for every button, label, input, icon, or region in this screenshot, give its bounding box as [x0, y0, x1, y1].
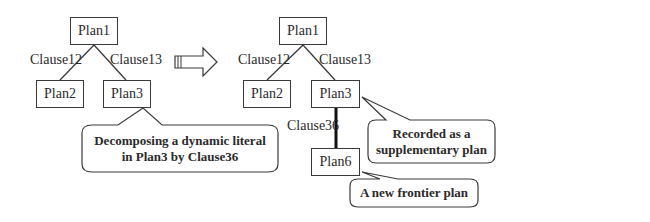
node-label: Plan3 [111, 86, 143, 102]
node-label: Plan1 [287, 23, 319, 39]
node-label: Plan1 [78, 23, 110, 39]
callout-decomposing: Decomposing a dynamic literal in Plan3 b… [82, 125, 278, 172]
callout-line: supplementary plan [376, 142, 487, 158]
edge-label-right-clause12: Clause12 [238, 52, 290, 68]
node-left-plan1: Plan1 [70, 17, 118, 45]
callout-line: Decomposing a dynamic literal [94, 133, 266, 149]
edge-label-right-clause13: Clause13 [319, 52, 371, 68]
node-label: Plan3 [320, 86, 352, 102]
node-right-plan2: Plan2 [243, 80, 291, 108]
node-right-plan3: Plan3 [311, 80, 360, 108]
callout-frontier: A new frontier plan [350, 179, 478, 207]
callout-supplementary: Recorded as a supplementary plan [368, 120, 495, 163]
node-right-plan6: Plan6 [311, 148, 360, 176]
node-label: Plan2 [44, 86, 76, 102]
node-right-plan1: Plan1 [279, 17, 327, 45]
node-left-plan3: Plan3 [103, 80, 151, 108]
edge-label-left-clause12: Clause12 [30, 52, 82, 68]
right-arrow-icon [175, 48, 217, 76]
callout-line: A new frontier plan [360, 185, 468, 201]
edge-label-right-clause36: Clause36 [287, 118, 339, 134]
node-left-plan2: Plan2 [36, 80, 84, 108]
node-label: Plan6 [320, 154, 352, 170]
callout-line: Recorded as a [393, 126, 471, 142]
callout-line: in Plan3 by Clause36 [122, 149, 239, 165]
edge-label-left-clause13: Clause13 [110, 52, 162, 68]
node-label: Plan2 [251, 86, 283, 102]
